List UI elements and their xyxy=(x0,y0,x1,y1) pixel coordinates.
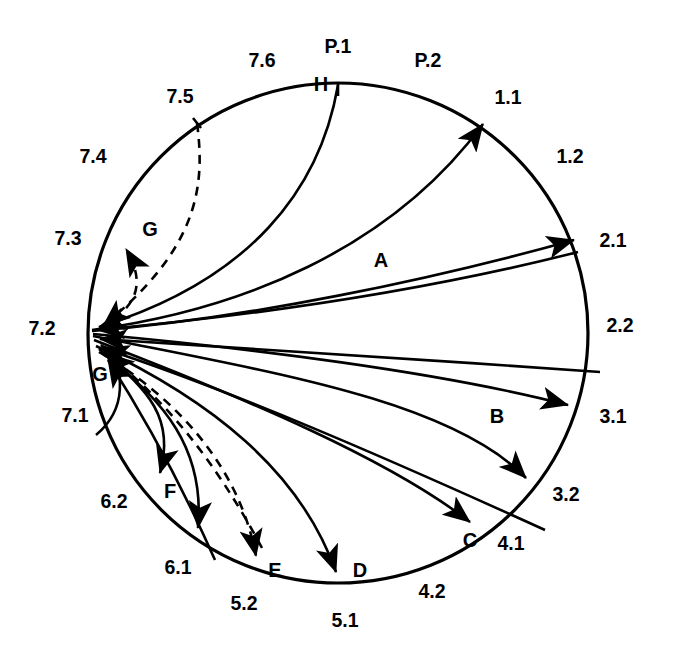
sector-label-5-1: 5.1 xyxy=(331,609,358,631)
sector-label-6-1: 6.1 xyxy=(164,556,191,578)
flow-path-inbound-4-1 xyxy=(102,348,545,530)
sector-label-4-2: 4.2 xyxy=(418,580,445,602)
flow-label-a: A xyxy=(374,249,388,271)
sector-label-7-6: 7.6 xyxy=(248,49,275,71)
sector-label-group: P.1 P.2 1.1 1.2 2.1 2.2 3.1 3.2 4.1 4.2 … xyxy=(28,35,633,631)
flow-label-group: A B C D E F G G H xyxy=(92,73,504,581)
sector-label-5-2: 5.2 xyxy=(230,592,257,614)
sector-label-p2: P.2 xyxy=(415,49,442,71)
flow-label-b: B xyxy=(490,405,504,427)
sector-label-7-4: 7.4 xyxy=(79,145,106,167)
flow-path-inbound-5-2 xyxy=(107,354,262,548)
sector-label-2-2: 2.2 xyxy=(606,314,633,336)
sector-label-2-1: 2.1 xyxy=(599,229,626,251)
flow-path-inbound-2-1 xyxy=(97,252,578,330)
sector-label-1-2: 1.2 xyxy=(556,145,583,167)
flow-label-c: C xyxy=(463,529,477,551)
sector-label-6-2: 6.2 xyxy=(100,490,127,512)
flow-label-g-lower: G xyxy=(92,363,108,385)
diagram-canvas: P.1 P.2 1.1 1.2 2.1 2.2 3.1 3.2 4.1 4.2 … xyxy=(0,0,674,660)
sector-label-7-3: 7.3 xyxy=(54,227,81,249)
flow-label-d: D xyxy=(353,559,367,581)
sector-label-p1: P.1 xyxy=(325,35,352,57)
sector-label-7-5: 7.5 xyxy=(166,85,193,107)
sector-label-3-2: 3.2 xyxy=(552,483,579,505)
sector-label-7-1: 7.1 xyxy=(61,404,88,426)
flow-label-e: E xyxy=(268,559,281,581)
flow-label-g-upper: G xyxy=(142,218,158,240)
flow-label-h: H xyxy=(314,73,328,95)
circle-boundary xyxy=(88,83,588,583)
circular-flow-svg: P.1 P.2 1.1 1.2 2.1 2.2 3.1 3.2 4.1 4.2 … xyxy=(0,0,674,660)
sector-label-7-2: 7.2 xyxy=(28,317,55,339)
flow-path-F-to-6-2 xyxy=(99,349,164,473)
flow-path-inbound-3-1 xyxy=(100,339,600,372)
sector-label-1-1: 1.1 xyxy=(494,86,521,108)
sector-label-4-1: 4.1 xyxy=(497,532,524,554)
sector-label-3-1: 3.1 xyxy=(599,405,626,427)
flow-label-f: F xyxy=(164,480,176,502)
